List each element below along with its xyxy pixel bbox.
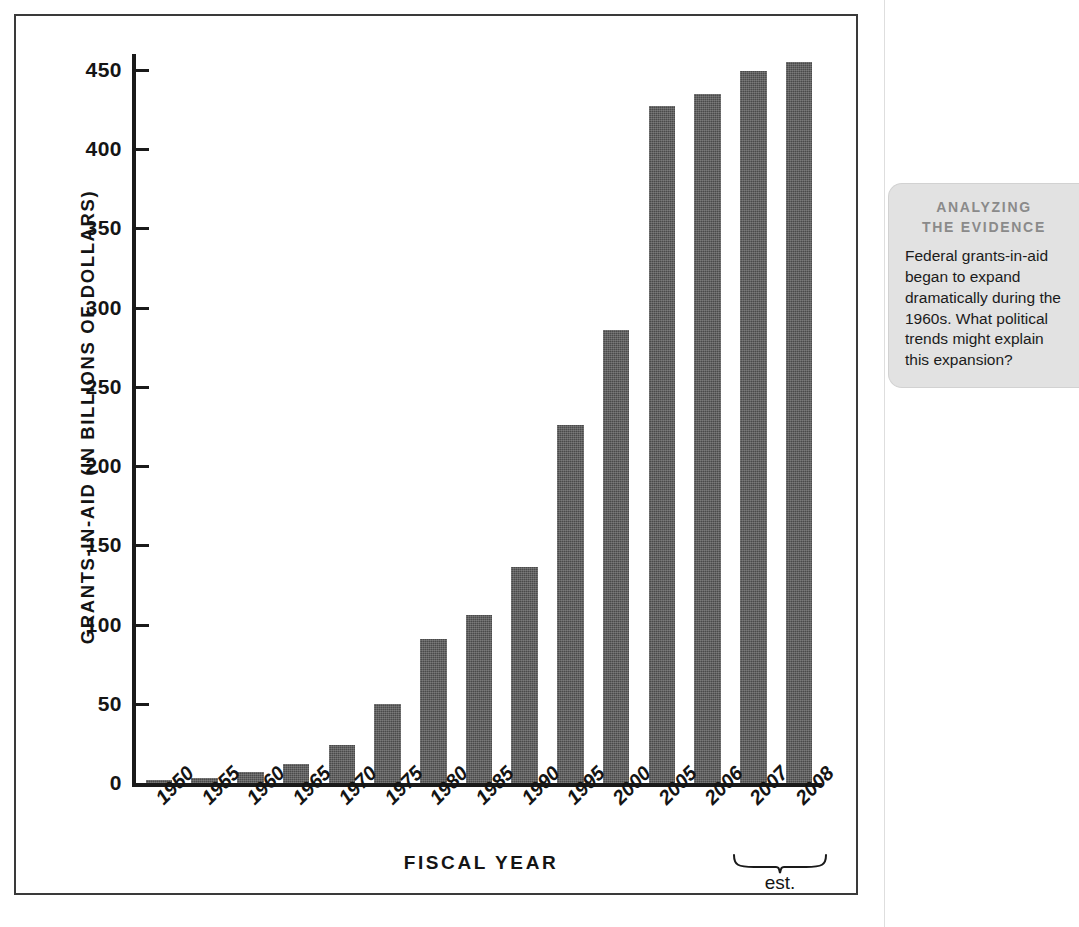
bar-2008 — [786, 62, 813, 783]
bar-2006 — [694, 94, 721, 783]
callout-header: ANALYZING THE EVIDENCE — [905, 198, 1063, 238]
y-axis-tick-label: 0 — [44, 771, 122, 793]
estimate-brace-icon — [732, 854, 828, 874]
estimate-label: est. — [732, 872, 828, 894]
chart-frame: 050100150200250300350400450 GRANTS-IN-AI… — [14, 14, 858, 895]
bar-2000 — [603, 330, 630, 783]
callout-body-text: Federal grants-in-aid began to expand dr… — [905, 246, 1063, 372]
bar-1985 — [466, 615, 493, 783]
analyzing-the-evidence-callout: ANALYZING THE EVIDENCE Federal grants-in… — [888, 183, 1079, 388]
y-axis-tick-label: 450 — [44, 58, 122, 80]
y-axis-tick-label-text: 450 — [62, 58, 122, 82]
x-axis-title: FISCAL YEAR — [136, 852, 826, 874]
callout-header-line-2: THE EVIDENCE — [905, 218, 1063, 238]
bar-2007 — [740, 71, 767, 783]
page-divider-rule — [884, 0, 885, 927]
bar-1995 — [557, 425, 584, 783]
y-axis-title: GRANTS-IN-AID (IN BILLIONS OF DOLLARS) — [77, 107, 99, 727]
bar-1990 — [511, 567, 538, 783]
bar-chart: 050100150200250300350400450 GRANTS-IN-AI… — [16, 16, 860, 897]
bar-1975 — [374, 704, 401, 783]
x-axis-tick-labels: 1950195519601965197019751980198519901995… — [136, 787, 822, 857]
bar-2005 — [649, 106, 676, 783]
y-axis-tick-label-text: 0 — [62, 771, 122, 795]
callout-header-line-1: ANALYZING — [905, 198, 1063, 218]
bar-1980 — [420, 639, 447, 783]
bars-layer — [136, 54, 822, 783]
